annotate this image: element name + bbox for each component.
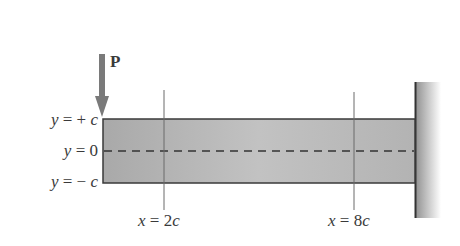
y-label-bottom: y = − c [8,173,98,191]
load-arrow-icon [95,54,109,117]
cantilever-beam-diagram: P y = + c y = 0 y = − c x = 2c x = 8c [0,0,460,246]
y-label-mid: y = 0 [8,142,98,160]
y-label-top: y = + c [8,111,98,129]
load-label: P [110,53,120,71]
x-label-2c: x = 2c [138,212,180,230]
x-label-8c: x = 8c [328,212,370,230]
beam [103,119,415,183]
fixed-wall-support [415,82,441,218]
